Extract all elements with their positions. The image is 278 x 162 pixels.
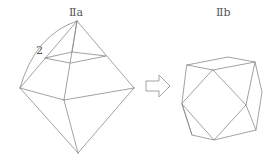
square-face	[182, 70, 246, 140]
polyhedron-right	[182, 57, 262, 140]
octahedron-left	[20, 21, 134, 153]
diagram-canvas	[0, 0, 278, 162]
truncation-plane	[45, 52, 106, 63]
outline	[182, 57, 262, 140]
right-arrow-icon	[146, 75, 170, 97]
